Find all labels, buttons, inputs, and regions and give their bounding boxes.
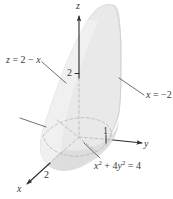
plane-x-equation-rhs: −2 (161, 89, 172, 100)
y-axis-tick-label: 1 (103, 126, 108, 136)
plane-equation-rhs-b: x (36, 54, 40, 65)
y-axis-line (113, 140, 142, 143)
plane-x-label-leader (119, 78, 144, 95)
plane-x-equation-label: x = −2 (146, 90, 172, 100)
cylinder-equation-label: x2 + 4y2 = 4 (94, 160, 141, 171)
plane-label-leader (42, 62, 66, 83)
cylinder-plus: + (102, 160, 113, 171)
unlabeled-leader (20, 118, 46, 127)
plane-equation-equals: = (10, 54, 21, 65)
plane-equation-label: z = 2 − x (6, 55, 41, 65)
solid-surface-group (40, 5, 121, 171)
plane-x-equation-equals: = (150, 89, 161, 100)
z-axis-tick-label: 2 (67, 68, 72, 78)
cylinder-rhs: 4 (136, 160, 141, 171)
cylinder-equals: = (125, 160, 136, 171)
plane-equation-minus: − (26, 54, 37, 65)
figure-container: z 2 y 1 x 2 z = 2 − x x = −2 x2 + 4y2 = … (0, 0, 173, 199)
y-axis-label: y (144, 139, 148, 149)
x-axis-label: x (17, 184, 21, 194)
x-axis-tick-label: 2 (44, 170, 49, 180)
z-axis-label: z (76, 1, 80, 11)
